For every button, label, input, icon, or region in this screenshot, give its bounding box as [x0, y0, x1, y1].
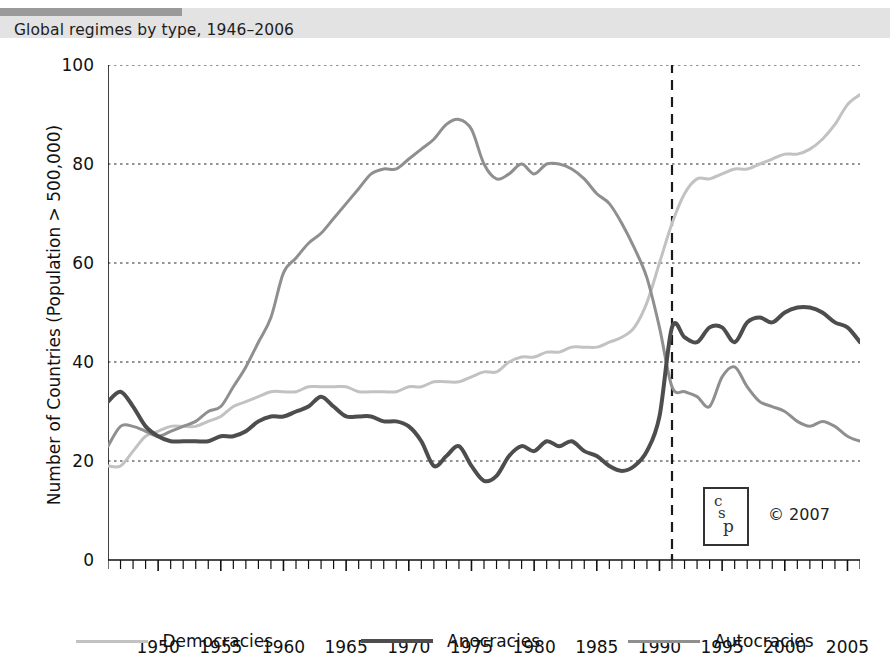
page-title: Global regimes by type, 1946–2006: [14, 21, 294, 39]
copyright-text: © 2007: [768, 505, 830, 524]
y-tick-label: 100: [48, 55, 94, 75]
legend-item[interactable]: Autocracies: [628, 631, 814, 651]
y-tick-label: 40: [48, 352, 94, 372]
chart-legend: DemocraciesAnocraciesAutocracies: [0, 625, 890, 657]
y-tick-label: 60: [48, 253, 94, 273]
y-axis-label: Number of Countries (Population > 500,00…: [44, 55, 64, 575]
plot-area: 020406080100 195019551960196519701975198…: [108, 65, 860, 560]
csp-letter-p: p: [723, 516, 734, 536]
legend-swatch: [361, 639, 433, 643]
legend-swatch: [76, 640, 148, 643]
legend-item[interactable]: Anocracies: [361, 631, 540, 651]
legend-label: Autocracies: [714, 631, 814, 651]
chart-figure: Global regimes by type, 1946–2006 Number…: [0, 0, 890, 664]
legend-item[interactable]: Democracies: [76, 631, 273, 651]
y-tick-label: 0: [48, 550, 94, 570]
y-tick-label: 20: [48, 451, 94, 471]
title-band: Global regimes by type, 1946–2006: [0, 8, 890, 38]
chart-svg: [108, 65, 860, 645]
csp-logo: c s p: [703, 487, 749, 546]
series-line-democracies: [108, 95, 860, 467]
title-accent-bar: [0, 8, 182, 16]
legend-label: Anocracies: [447, 631, 540, 651]
legend-label: Democracies: [162, 631, 273, 651]
legend-swatch: [628, 640, 700, 643]
series-line-anocracies: [108, 307, 860, 481]
y-tick-label: 80: [48, 154, 94, 174]
